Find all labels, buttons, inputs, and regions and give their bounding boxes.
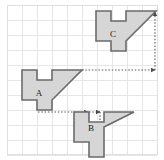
figure-svg: A B C [0, 0, 164, 160]
shape-label-a: A [36, 88, 43, 98]
shape-label-c: C [110, 29, 116, 39]
shape-label-b: B [88, 123, 94, 133]
translation-figure-canvas: A B C [0, 0, 164, 160]
